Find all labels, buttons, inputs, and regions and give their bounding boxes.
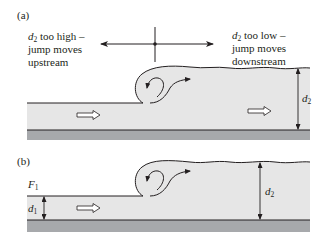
left-note-line3: upstream <box>28 56 68 68</box>
froude-label-f1: F1 <box>28 178 38 194</box>
right-note-line3: downstream <box>232 55 286 67</box>
right-note-line2: jump moves <box>232 42 286 54</box>
depth-label-d2-b: d2 <box>265 185 274 201</box>
panel-a-label: (a) <box>17 9 29 21</box>
depth-label-d1: d1 <box>28 202 37 218</box>
left-note-line2: jump moves <box>28 43 82 55</box>
channel-bed-b <box>27 220 310 232</box>
panel-b-label: (b) <box>17 155 30 167</box>
channel-bed-a <box>27 130 310 140</box>
water-body-a <box>27 66 310 130</box>
depth-label-d2-a: d2 <box>302 92 311 108</box>
